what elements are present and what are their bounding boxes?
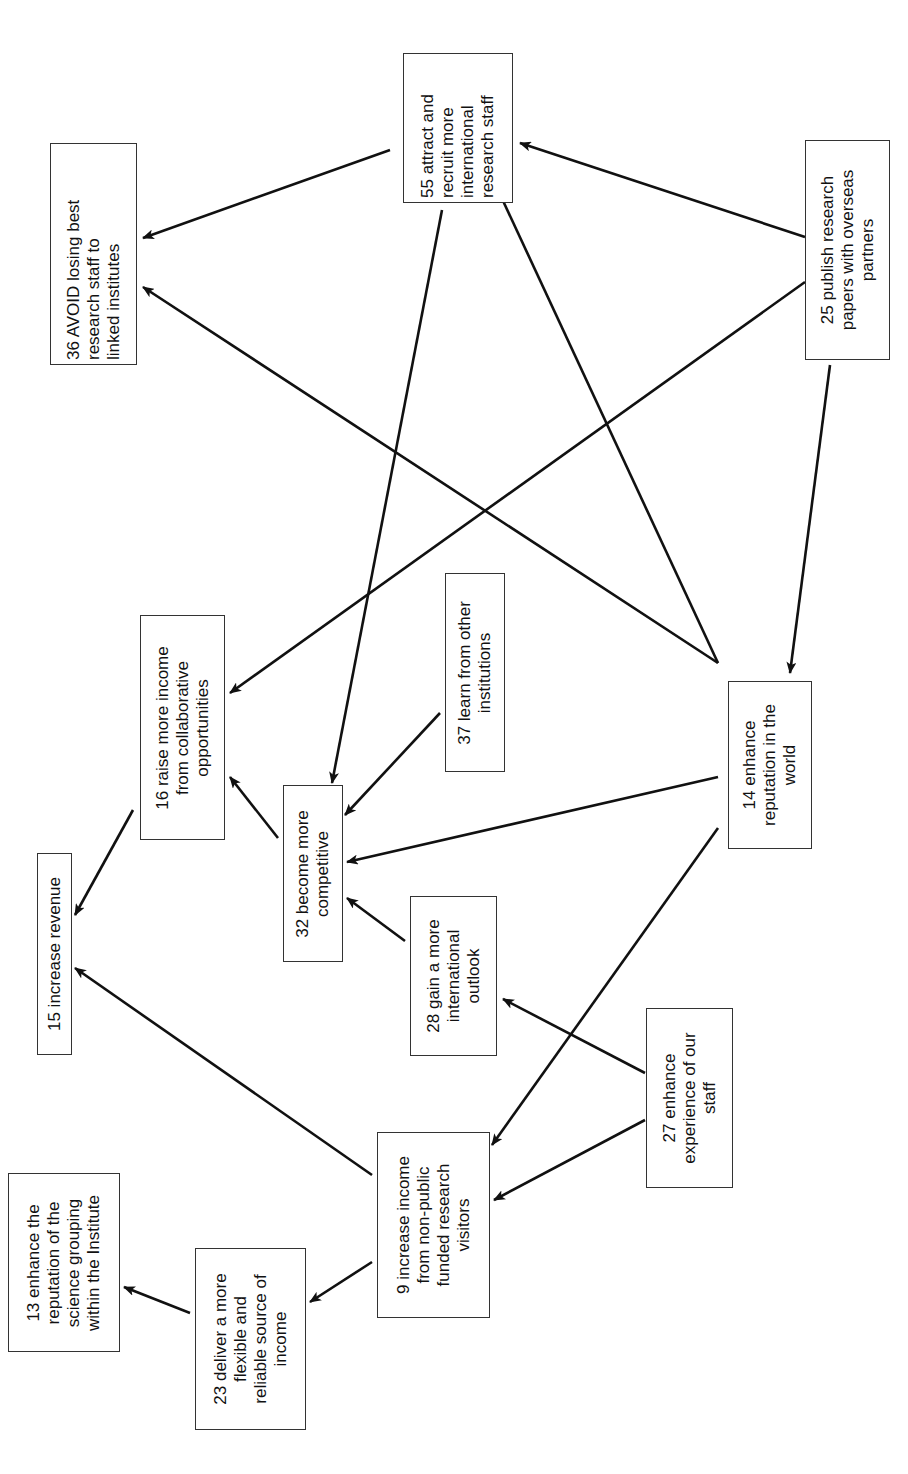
edge-arrow-27-to-9 — [494, 1120, 645, 1200]
node-55: 55 attract and recruit more internationa… — [403, 53, 513, 203]
edge-arrow-25-to-14 — [790, 365, 830, 673]
node-14: 14 enhance reputation in the world — [728, 681, 812, 849]
edge-arrow-25-to-16 — [230, 282, 805, 693]
node-16: 16 raise more income from collaborative … — [140, 615, 225, 840]
node-label: 28 gain a more international outlook — [424, 901, 484, 1051]
node-36: 36 AVOID losing best research staff to l… — [50, 143, 137, 365]
edge-arrow-32-to-16 — [230, 777, 278, 838]
node-label: 23 deliver a more flexible and reliable … — [211, 1253, 291, 1425]
node-28: 28 gain a more international outlook — [410, 896, 497, 1056]
node-label: 32 become more competitive — [293, 790, 333, 957]
node-label: 16 raise more income from collaborative … — [153, 620, 213, 835]
edge-arrow-28-to-32 — [347, 898, 405, 941]
node-label: 27 enhance experience of our staff — [660, 1013, 720, 1183]
edge-arrow-55-to-36 — [143, 150, 390, 238]
node-label: 14 enhance reputation in the world — [740, 686, 800, 844]
node-label: 37 learn from other institutions — [455, 578, 495, 767]
node-32: 32 become more competitive — [283, 785, 343, 962]
node-27: 27 enhance experience of our staff — [646, 1008, 733, 1188]
edge-arrow-16-to-15 — [75, 810, 133, 915]
edge-arrow-14-to-32 — [347, 777, 718, 862]
node-label: 15 increase revenue — [45, 858, 65, 1050]
node-label: 13 enhance the reputation of the science… — [24, 1178, 104, 1347]
edge-arrow-55-to-32 — [332, 210, 442, 783]
node-label: 25 publish research papers with overseas… — [818, 145, 878, 355]
node-label: 55 attract and recruit more internationa… — [418, 58, 498, 198]
edge-arrow-9-to-15 — [75, 968, 372, 1175]
node-9: 9 increase income from non-public funded… — [377, 1132, 490, 1318]
node-label: 9 increase income from non-public funded… — [394, 1137, 474, 1313]
node-15: 15 increase revenue — [37, 853, 72, 1055]
edge-arrow-9-to-23 — [310, 1262, 372, 1302]
edge-arrow-37-to-32 — [345, 713, 440, 815]
edge-arrow-27-to-28 — [503, 999, 645, 1073]
node-25: 25 publish research papers with overseas… — [805, 140, 890, 360]
node-37: 37 learn from other institutions — [445, 573, 505, 772]
node-13: 13 enhance the reputation of the science… — [8, 1173, 120, 1352]
node-23: 23 deliver a more flexible and reliable … — [195, 1248, 306, 1430]
edge-arrow-25-to-55 — [520, 143, 805, 237]
node-label: 36 AVOID losing best research staff to l… — [64, 148, 124, 360]
edge-arrow-23-to-13 — [124, 1287, 190, 1313]
